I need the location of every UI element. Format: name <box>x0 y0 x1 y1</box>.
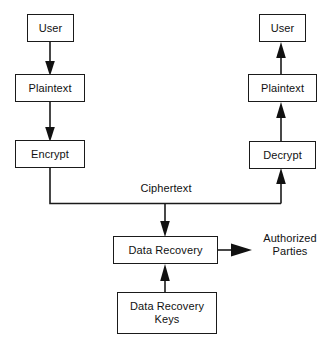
node-label: Decrypt <box>263 149 302 162</box>
edge-keys-to-data-recovery <box>160 264 170 292</box>
node-decrypt[interactable]: Decrypt <box>249 141 316 169</box>
node-user-right[interactable]: User <box>259 14 306 42</box>
node-label: Encrypt <box>31 148 69 161</box>
edge-decrypt-to-plaintext-right <box>276 102 286 141</box>
node-label: Plaintext <box>261 82 304 95</box>
node-data-recovery-keys[interactable]: Data Recovery Keys <box>117 292 217 334</box>
node-plaintext-right[interactable]: Plaintext <box>248 74 317 102</box>
node-user-left[interactable]: User <box>27 14 74 42</box>
node-label: User <box>271 22 295 35</box>
node-label: Plaintext <box>28 82 71 95</box>
edge-data-recovery-to-authorized-parties <box>218 244 252 257</box>
node-plaintext-left[interactable]: Plaintext <box>15 74 85 102</box>
edge-plaintext-right-to-user-right <box>276 42 286 74</box>
edge-ciphertext-bus-to-data-recovery <box>160 204 170 238</box>
edge-plaintext-to-encrypt <box>45 102 55 142</box>
node-label: Data Recovery Keys <box>130 300 204 326</box>
label-ciphertext: Ciphertext <box>128 182 204 195</box>
label-authorized-parties: Authorized Parties <box>253 232 327 258</box>
edge-user-left-to-plaintext <box>45 42 55 76</box>
edge-ciphertext-bus-to-decrypt <box>276 168 286 204</box>
node-label: User <box>39 22 63 35</box>
diagram-canvas: User Plaintext Encrypt User Plaintext De… <box>0 0 331 355</box>
node-label: Data Recovery <box>128 244 202 257</box>
node-encrypt[interactable]: Encrypt <box>15 140 85 168</box>
node-data-recovery[interactable]: Data Recovery <box>113 236 218 264</box>
